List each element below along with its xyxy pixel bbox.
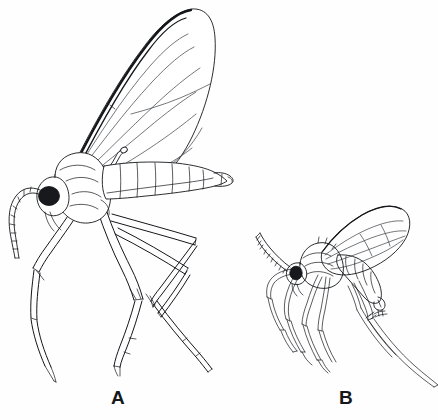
figure-b-abdomen bbox=[337, 255, 385, 310]
figure-b-tibial-detail bbox=[374, 310, 387, 317]
figure-a-abdomen bbox=[102, 162, 233, 199]
figure-a-midleg bbox=[98, 209, 143, 376]
figure-b-foreleg bbox=[267, 269, 297, 352]
illustration-plate: A B bbox=[0, 0, 438, 420]
figure-label-b: B bbox=[339, 387, 353, 408]
figure-a bbox=[9, 9, 233, 382]
figure-a-antenna bbox=[9, 187, 41, 258]
figure-b-foreleg-far bbox=[284, 273, 312, 365]
figure-b-hindleg bbox=[354, 281, 438, 387]
figure-a-hindleg-far bbox=[115, 228, 190, 317]
figure-b-hindleg-far bbox=[348, 284, 396, 357]
figure-b-eye bbox=[290, 266, 302, 280]
figure-a-eye bbox=[39, 187, 60, 206]
figure-b bbox=[256, 206, 438, 387]
figure-b-midleg bbox=[302, 275, 330, 373]
figure-b-midleg-far bbox=[318, 277, 336, 362]
figure-b-antenna bbox=[256, 233, 290, 273]
figure-label-a: A bbox=[111, 387, 125, 408]
figure-a-head bbox=[37, 177, 69, 231]
plate-canvas: A B bbox=[0, 0, 438, 420]
figure-b-wing bbox=[321, 206, 410, 275]
figure-a-foreleg bbox=[31, 200, 84, 382]
